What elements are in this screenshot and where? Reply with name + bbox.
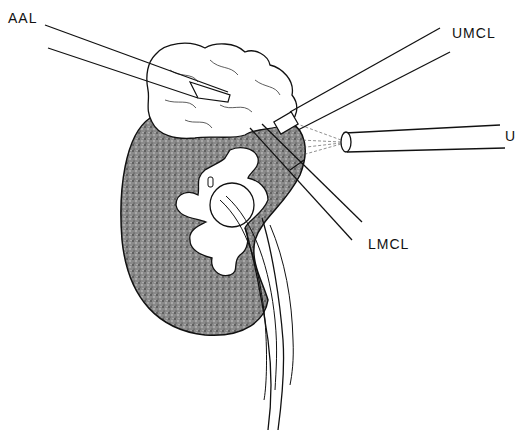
u-scope (298, 125, 505, 155)
label-u: U (505, 128, 516, 144)
umcl-instrument (274, 28, 450, 134)
perirenal-fat (147, 43, 297, 138)
label-lmcl: LMCL (368, 236, 409, 252)
label-aal: AAL (8, 10, 37, 26)
kidney-surgery-illustration (0, 0, 521, 438)
label-umcl: UMCL (452, 25, 496, 41)
small-calculus (208, 177, 213, 187)
